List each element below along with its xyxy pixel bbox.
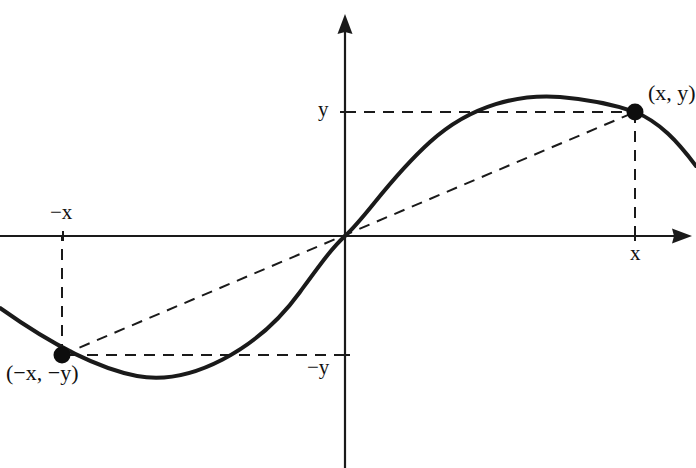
odd-function-symmetry-figure: y −y x −x (x, y) (−x, −y) <box>0 0 696 468</box>
x-axis-arrowhead <box>672 229 692 244</box>
point-neg-xy-label: (−x, −y) <box>6 362 78 384</box>
point-xy-dot <box>627 104 644 121</box>
figure-canvas <box>0 0 696 468</box>
point-xy-label: (x, y) <box>648 82 696 104</box>
y-axis-value-label: y <box>318 99 329 120</box>
y-axis-arrowhead <box>338 14 353 34</box>
negative-y-axis-value-label: −y <box>307 357 329 378</box>
x-axis-value-label: x <box>630 243 641 264</box>
negative-x-axis-value-label: −x <box>50 202 72 223</box>
